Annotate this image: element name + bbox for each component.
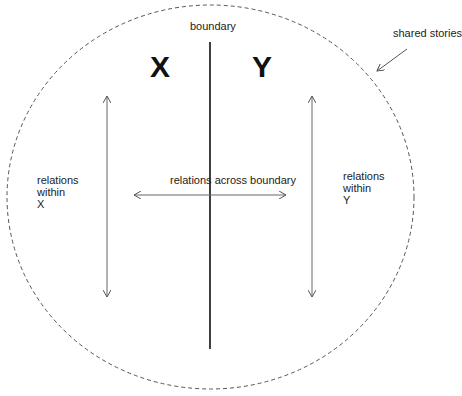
label-line: X bbox=[37, 198, 79, 210]
label-line: Y bbox=[343, 194, 385, 206]
shared-stories-pointer-arrow bbox=[377, 49, 407, 71]
boundary-label: boundary bbox=[190, 20, 236, 32]
shared-stories-label: shared stories bbox=[393, 27, 462, 39]
side-y-label: Y bbox=[252, 52, 272, 82]
label-line: within bbox=[37, 186, 79, 198]
relations-within-y-label: relations within Y bbox=[343, 170, 385, 206]
label-line: relations bbox=[343, 170, 385, 182]
relations-across-boundary-label: relations across boundary bbox=[170, 174, 296, 186]
label-line: relations bbox=[37, 174, 79, 186]
side-x-label: X bbox=[150, 52, 170, 82]
relations-within-x-label: relations within X bbox=[37, 174, 79, 210]
label-line: within bbox=[343, 182, 385, 194]
